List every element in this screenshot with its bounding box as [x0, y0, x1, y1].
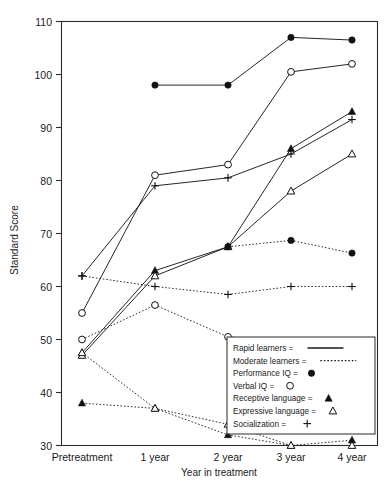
y-axis-title: Standard Score — [9, 205, 20, 275]
series-line — [155, 37, 352, 85]
series-socialization-moderate-learners — [78, 272, 356, 298]
x-tick-label: 2 year — [213, 451, 243, 463]
chart-legend: Rapid learners =Moderate learners =Perfo… — [227, 337, 375, 434]
legend-label: Socialization = — [233, 420, 286, 429]
data-point-plus — [151, 283, 159, 291]
data-point-filled-circle — [152, 82, 158, 88]
line-chart: 30405060708090100110 Pretreatment1 year2… — [0, 0, 391, 489]
data-point-plus — [287, 283, 295, 291]
series-receptive-language-rapid-learners — [78, 108, 355, 356]
y-tick-label: 30 — [40, 440, 52, 452]
series-socialization-rapid-learners — [78, 116, 356, 280]
data-point-open-circle — [152, 302, 159, 309]
data-point-open-circle — [152, 172, 159, 179]
y-tick-label: 100 — [34, 69, 52, 81]
y-tick-label: 60 — [40, 281, 52, 293]
series-line — [82, 112, 352, 353]
figure-container: 30405060708090100110 Pretreatment1 year2… — [0, 0, 391, 489]
legend-symbol-open-circle — [287, 382, 294, 389]
legend-label: Receptive language = — [233, 394, 313, 403]
data-point-open-triangle — [287, 187, 295, 194]
legend-label: Rapid learners = — [233, 344, 294, 353]
data-point-filled-circle — [288, 237, 294, 243]
legend-label: Expressive language = — [233, 407, 316, 416]
data-point-filled-circle — [225, 244, 231, 250]
data-point-filled-circle — [225, 82, 231, 88]
legend-label: Moderate learners = — [233, 357, 307, 366]
data-point-filled-triangle — [287, 145, 294, 152]
series-expressive-language-rapid-learners — [78, 150, 356, 358]
x-axis-tick-labels: Pretreatment1 year2 year3 year4 year — [52, 451, 367, 463]
data-point-plus — [224, 291, 232, 299]
y-tick-label: 110 — [35, 16, 52, 28]
data-point-open-circle — [349, 61, 356, 68]
series-line — [82, 276, 352, 295]
data-point-filled-triangle — [78, 399, 85, 406]
data-point-plus — [348, 283, 356, 291]
y-tick-label: 80 — [40, 175, 52, 187]
data-point-filled-circle — [349, 37, 355, 43]
data-point-filled-triangle — [348, 108, 355, 115]
series-line — [82, 154, 352, 355]
legend-label: Performance IQ = — [233, 369, 298, 378]
data-point-open-circle — [288, 68, 295, 75]
series-verbal-iq-rapid-learners — [79, 61, 356, 317]
data-point-filled-circle — [349, 250, 355, 256]
y-tick-label: 90 — [40, 122, 52, 134]
series-line — [82, 64, 352, 313]
data-point-open-circle — [79, 310, 86, 317]
legend-label: Verbal IQ = — [233, 382, 274, 391]
data-point-open-circle — [79, 336, 86, 343]
data-point-open-circle — [225, 161, 232, 168]
y-tick-label: 70 — [40, 228, 52, 240]
y-tick-label: 50 — [40, 334, 52, 346]
data-point-plus — [224, 174, 232, 182]
x-axis-title: Year in treatment — [181, 467, 257, 478]
x-tick-label: 3 year — [276, 451, 306, 463]
x-tick-label: 4 year — [337, 451, 367, 463]
series-performance-iq-rapid-learners — [152, 34, 355, 88]
x-tick-label: Pretreatment — [52, 451, 113, 463]
x-tick-label: 1 year — [140, 451, 170, 463]
data-point-plus — [348, 116, 356, 124]
y-tick-label: 40 — [40, 387, 52, 399]
data-point-filled-circle — [288, 34, 294, 40]
legend-symbol-filled-circle — [308, 370, 314, 376]
y-axis-tick-labels: 30405060708090100110 — [34, 16, 52, 452]
series-line — [82, 120, 352, 276]
series-performance-iq-moderate-learners — [225, 237, 355, 256]
data-point-open-triangle — [348, 150, 356, 157]
